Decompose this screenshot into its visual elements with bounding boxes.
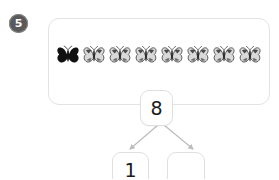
number-bond-total-box[interactable]: 8	[140, 90, 173, 126]
number-bond-part-right-box[interactable]	[167, 152, 205, 179]
arrow-to-right-part	[164, 125, 193, 149]
number-bond-part-left-box[interactable]: 1	[112, 152, 149, 179]
butterfly-icon	[134, 45, 158, 67]
butterfly-icon	[82, 45, 106, 67]
butterfly-icon	[186, 45, 210, 67]
number-bond-total-value: 8	[150, 99, 162, 118]
butterfly-icon	[108, 45, 132, 67]
butterfly-row	[49, 45, 269, 67]
butterfly-icon	[212, 45, 236, 67]
butterfly-icon	[160, 45, 184, 67]
number-bond-part-left-value: 1	[124, 161, 136, 180]
question-number-label: 5	[15, 18, 23, 29]
arrow-to-left-part	[130, 125, 158, 149]
butterfly-icon	[56, 45, 80, 67]
butterfly-icon	[238, 45, 262, 67]
question-number-badge: 5	[9, 14, 28, 33]
